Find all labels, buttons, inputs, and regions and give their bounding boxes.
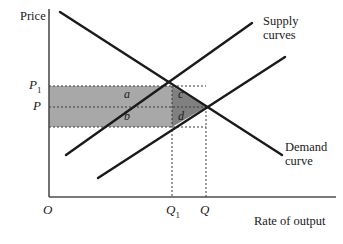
quantity-tick-q1-subscript: 1 [175,210,179,220]
quantity-tick-q: Q [200,203,209,218]
price-tick-p: P [33,99,41,114]
y-axis-title: Price [20,9,46,23]
region-label-a: a [124,88,130,101]
supply-curves-annotation: Supply curves [263,14,298,42]
x-axis-title: Rate of output [254,214,326,228]
quantity-tick-q1-text: Q [166,202,175,217]
supply-demand-diagram: Price Rate of output O P1 P Q1 Q Supply … [0,0,343,244]
demand-curve-annotation-line2: curve [285,154,327,168]
region-label-b: b [124,110,130,123]
region-label-c: c [178,88,183,101]
price-tick-p1-text: P [29,77,37,92]
quantity-tick-q1: Q1 [166,203,180,220]
demand-curve-annotation-line1: Demand [285,140,327,154]
price-tick-p1-subscript: 1 [37,85,41,95]
region-label-d: d [178,110,184,123]
supply-curves-annotation-line1: Supply [263,14,298,28]
demand-curve-annotation: Demand curve [285,140,327,168]
price-tick-p1: P1 [29,78,41,95]
supply-curves-annotation-line2: curves [263,28,298,42]
demand-curve [60,12,282,155]
origin-label: O [43,203,52,218]
